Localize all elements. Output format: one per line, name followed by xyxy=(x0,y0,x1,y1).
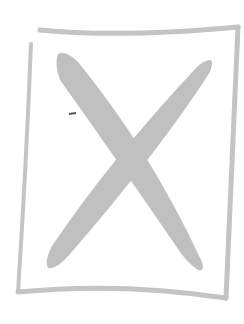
stray-mark xyxy=(69,113,76,114)
x-placeholder-image xyxy=(0,0,244,324)
x-cross-icon xyxy=(47,53,212,270)
